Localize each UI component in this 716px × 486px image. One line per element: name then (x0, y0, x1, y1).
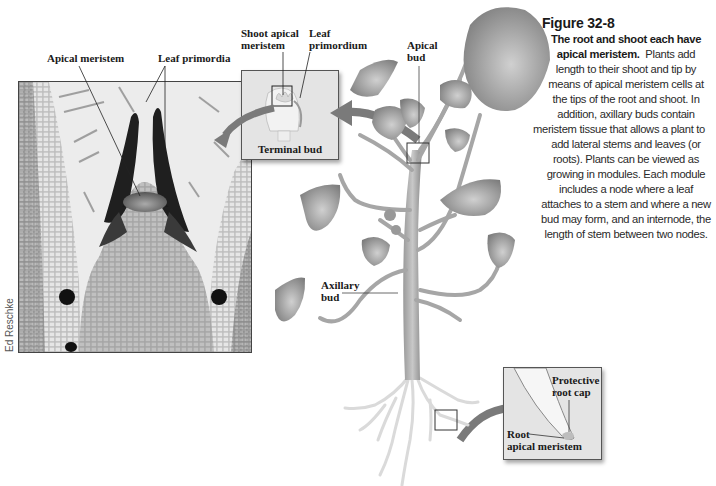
caption-line: length of stem between two nodes. (540, 227, 712, 242)
caption-line: add lateral stems and leaves (or (540, 137, 712, 152)
caption-line: attaches to a stem and where a new (540, 197, 712, 212)
leaf-right-upper (445, 128, 470, 152)
caption-line: apical meristem. Plants add (540, 47, 712, 62)
figure-number: Figure 32-8 (540, 15, 712, 31)
caption-line: growing in modules. Each module (540, 167, 712, 182)
leaf-right-lower (487, 232, 515, 268)
flower-bud-2 (391, 225, 401, 235)
caption-line: length to their shoot and tip by (540, 62, 712, 77)
root-system (345, 375, 478, 485)
leaf-upper-left (350, 60, 398, 97)
leaf-small-top (440, 80, 472, 108)
leaf-left-mid (300, 184, 340, 230)
caption-line: the tips of the root and shoot. In (540, 92, 712, 107)
flower-bud-1 (384, 209, 396, 221)
root-inset-pointer-lines (504, 368, 601, 459)
leaf-lower-left (275, 278, 305, 322)
root-tip-inset: Protective root cap Root apical meristem (503, 367, 602, 460)
caption-line: means of apical meristem cells at (540, 77, 712, 92)
caption-line: bud may form, and an internode, the (540, 212, 712, 227)
label-apical-bud-line1: Apical (407, 39, 438, 51)
label-axillary-bud-line1: Axillary (321, 279, 360, 291)
figure-caption-body: The root and shoot each have apical meri… (540, 32, 712, 242)
label-axillary-bud-line2: bud (321, 291, 360, 303)
caption-line: addition, axillary buds contain (540, 107, 712, 122)
leaf-large-top (464, 7, 550, 111)
caption-line: roots). Plants can be viewed as (540, 152, 712, 167)
label-apical-bud: Apical bud (407, 39, 438, 63)
caption-line: The root and shoot each have (540, 32, 712, 47)
label-apical-bud-line2: bud (407, 51, 438, 63)
label-axillary-bud: Axillary bud (321, 279, 360, 303)
main-stem (403, 150, 422, 380)
caption-line: meristem tissue that allows a plant to (520, 122, 716, 137)
caption-line: includes a node where a leaf (540, 182, 712, 197)
leaf-small-lower-left (362, 237, 390, 266)
figure-caption: Figure 32-8 The root and shoot each have… (540, 15, 712, 242)
